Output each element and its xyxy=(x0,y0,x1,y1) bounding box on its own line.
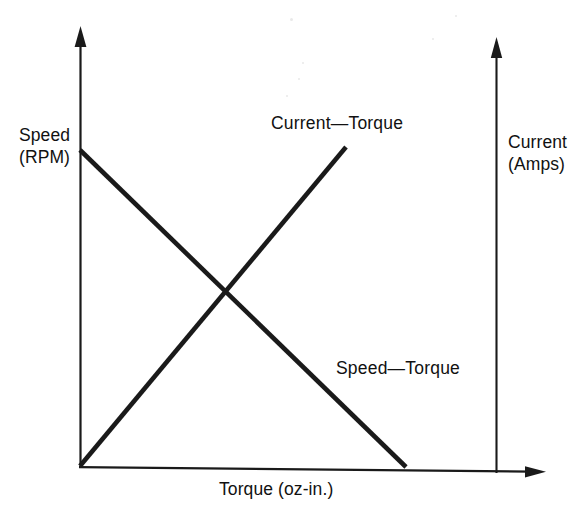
x-axis xyxy=(79,466,546,477)
motor-curves-figure: Speed (RPM) Current (Amps) Torque (oz-in… xyxy=(0,0,587,509)
left-y-axis-arrow-icon xyxy=(75,26,87,47)
series-line-current-torque xyxy=(80,147,346,466)
left-y-axis xyxy=(75,26,87,466)
x-axis-arrow-icon xyxy=(525,466,546,477)
left-axis-label: Speed (RPM) xyxy=(19,124,70,169)
right-y-axis-arrow-icon xyxy=(491,37,502,58)
x-axis-label: Torque (oz-in.) xyxy=(219,478,333,500)
series-label-current-torque: Current—Torque xyxy=(271,113,403,134)
right-y-axis xyxy=(491,37,502,473)
series-label-speed-torque: Speed—Torque xyxy=(336,358,460,379)
x-axis-line xyxy=(79,467,531,471)
chart-plot-area xyxy=(0,0,587,509)
series-line-speed-torque xyxy=(80,150,406,467)
right-axis-label: Current (Amps) xyxy=(508,131,567,176)
